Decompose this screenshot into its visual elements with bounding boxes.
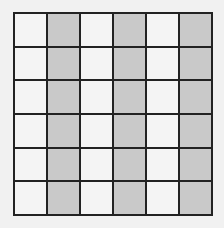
grid-cell-shaded [46, 147, 79, 181]
grid-cell-shaded [112, 79, 145, 113]
grid-cell-shaded [112, 46, 145, 80]
grid-cell [13, 180, 46, 214]
grid-cell [13, 12, 46, 46]
grid-cell [79, 12, 112, 46]
grid-cell-shaded [112, 113, 145, 147]
grid-cell-shaded [178, 79, 211, 113]
grid-cell-shaded [46, 46, 79, 80]
checker-grid [13, 12, 213, 216]
grid-cell [79, 147, 112, 181]
grid-cell-shaded [112, 147, 145, 181]
grid-cell-shaded [178, 12, 211, 46]
grid-cell [79, 79, 112, 113]
grid-cell-shaded [46, 113, 79, 147]
grid-cell-shaded [178, 147, 211, 181]
grid-cell [79, 113, 112, 147]
grid-cell [145, 12, 178, 46]
grid-cell [79, 46, 112, 80]
grid-cell [145, 147, 178, 181]
grid-cell [145, 113, 178, 147]
grid-cell-shaded [178, 46, 211, 80]
grid-cell-shaded [46, 12, 79, 46]
grid-cell-shaded [112, 180, 145, 214]
grid-cell [13, 113, 46, 147]
grid-cell [13, 46, 46, 80]
grid-cell-shaded [112, 12, 145, 46]
grid-cell [145, 79, 178, 113]
grid-cell-shaded [178, 113, 211, 147]
grid-cell-shaded [178, 180, 211, 214]
grid-cell-shaded [46, 79, 79, 113]
grid-cell [13, 147, 46, 181]
grid-cell [13, 79, 46, 113]
grid-cell [79, 180, 112, 214]
grid-cell [145, 180, 178, 214]
grid-cell [145, 46, 178, 80]
grid-cell-shaded [46, 180, 79, 214]
